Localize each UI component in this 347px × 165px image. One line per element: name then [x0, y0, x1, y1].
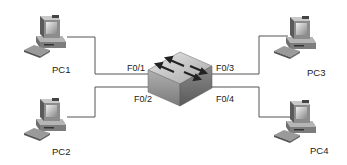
- port-label-f03: F0/3: [216, 63, 234, 73]
- port-label-f01: F0/1: [127, 63, 145, 73]
- pc2-computer-icon: [24, 98, 66, 141]
- port-label-f02: F0/2: [134, 94, 152, 104]
- port-label-f04: F0/4: [216, 94, 234, 104]
- host-label-pc1: PC1: [52, 65, 70, 75]
- host-label-pc4: PC4: [310, 146, 328, 156]
- pc4-computer-icon: [274, 100, 316, 143]
- switch-icon[interactable]: [148, 52, 212, 106]
- host-label-pc2: PC2: [52, 147, 70, 157]
- connection-lines: [0, 0, 347, 165]
- pc1-computer-icon: [24, 15, 66, 58]
- network-diagram: F0/1 F0/2 F0/3 F0/4 PC1 PC2 PC3 PC4: [0, 0, 347, 165]
- host-label-pc3: PC3: [307, 68, 325, 78]
- pc3-computer-icon: [274, 16, 316, 59]
